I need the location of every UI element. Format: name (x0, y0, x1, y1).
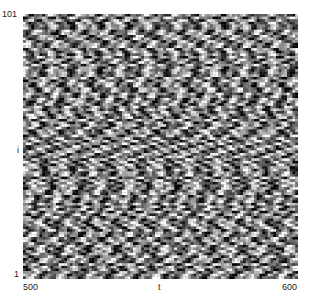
x-axis-label: t (158, 283, 161, 292)
y-tick-min: 1 (14, 270, 19, 279)
heatmap-plot-area (23, 14, 298, 279)
x-tick-min: 500 (23, 283, 38, 292)
y-tick-max: 101 (2, 10, 17, 19)
x-tick-max: 600 (282, 283, 297, 292)
y-axis-label: i (17, 146, 19, 155)
heatmap-image (23, 14, 298, 279)
